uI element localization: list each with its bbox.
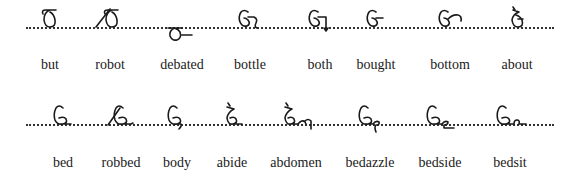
word-label: bought [336, 57, 416, 73]
shorthand-outline-icon [70, 0, 150, 40]
word-label: bedside [400, 155, 480, 171]
shorthand-outline-icon [210, 0, 290, 40]
shorthand-outline-icon [477, 0, 557, 40]
shorthand-outline-icon [336, 0, 416, 40]
word-label: bedazzle [330, 155, 410, 171]
word-label: about [477, 57, 557, 73]
shorthand-outline-icon [470, 94, 550, 134]
word-label: bottle [210, 57, 290, 73]
shorthand-outline-icon [400, 94, 480, 134]
shorthand-outline-icon [330, 94, 410, 134]
shorthand-outline-icon [256, 94, 336, 134]
word-label: abdomen [256, 155, 336, 171]
word-label: robot [70, 57, 150, 73]
word-label: bedsit [470, 155, 550, 171]
